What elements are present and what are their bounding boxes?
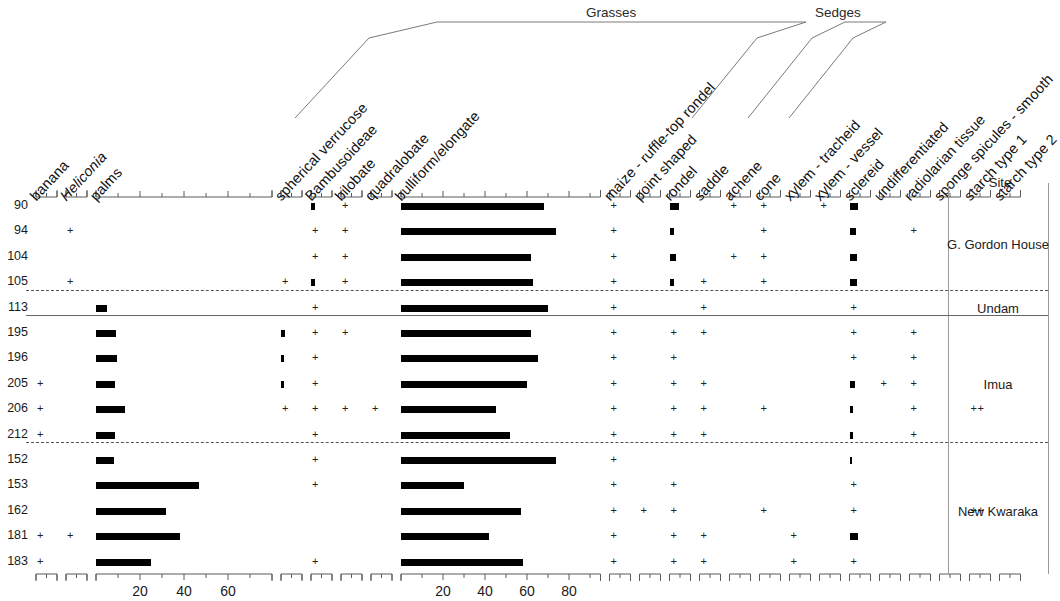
phytolith-diagram: Grasses Sedges 20406020406080 bananaHeli… [0, 0, 1060, 601]
site-column-header: Site [950, 175, 1050, 190]
site-separator [26, 290, 1048, 291]
site-label: Imua [940, 378, 1056, 392]
site-label: Undam [940, 302, 1056, 316]
site-separator [26, 315, 1048, 316]
site-label: G. Gordon House [940, 238, 1056, 252]
site-label: New Kwaraka [940, 505, 1056, 519]
site-separator [26, 442, 1048, 443]
site-column: G. Gordon HouseUndamImuaNew Kwaraka [0, 0, 1060, 601]
